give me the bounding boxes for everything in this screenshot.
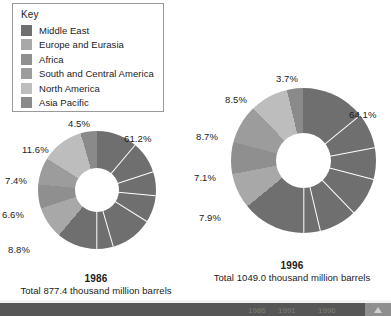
- strip-cell-c: 1996: [318, 306, 336, 315]
- pie-chart-1986: 61.2% 8.8% 6.6% 7.4% 11.6% 4.5% 1986 Tot…: [2, 113, 190, 303]
- legend-item-europe-and-eurasia: Europe and Eurasia: [21, 38, 163, 52]
- legend-label-europe-and-eurasia: Europe and Eurasia: [39, 39, 124, 50]
- legend-item-africa: Africa: [21, 52, 163, 66]
- legend-swatch-asia-pacific: [21, 97, 32, 108]
- slice-separator: [96, 190, 97, 249]
- caption-year-1986: 1986: [2, 273, 190, 285]
- strip-accent-block: [365, 303, 391, 316]
- pct-label-1986-africa: 6.6%: [2, 209, 24, 220]
- pct-label-1996-south-and-central-america: 8.7%: [196, 131, 218, 142]
- caption-1986: 1986 Total 877.4 thousand million barrel…: [2, 273, 190, 297]
- bottom-cropped-strip: 1986 1991 1996: [0, 303, 391, 316]
- legend-label-north-america: North America: [39, 83, 100, 94]
- pct-label-1986-north-america: 11.6%: [22, 144, 49, 155]
- figure-root: Key Middle East Europe and Eurasia Afric…: [0, 0, 391, 316]
- legend-item-north-america: North America: [21, 81, 163, 95]
- legend-swatch-north-america: [21, 83, 32, 94]
- pct-label-1986-south-and-central-america: 7.4%: [5, 175, 27, 186]
- legend-item-middle-east: Middle East: [21, 23, 163, 37]
- pct-label-1996-middle-east: 64.1%: [349, 109, 376, 120]
- legend-label-asia-pacific: Asia Pacific: [39, 97, 89, 108]
- pct-label-1996-europe-and-eurasia: 7.9%: [199, 212, 221, 223]
- caption-total-1996: Total 1049.0 thousand million barrels: [194, 272, 390, 284]
- strip-cell-b: 1991: [278, 306, 296, 315]
- legend-label-south-and-central-america: South and Central America: [39, 68, 154, 79]
- caption-total-1986: Total 877.4 thousand million barrels: [2, 285, 190, 297]
- legend-swatch-africa: [21, 54, 32, 65]
- legend-item-asia-pacific: Asia Pacific: [21, 96, 163, 110]
- pct-label-1996-africa: 7.1%: [194, 172, 216, 183]
- legend-swatch-south-and-central-america: [21, 68, 32, 79]
- legend-item-south-and-central-america: South and Central America: [21, 67, 163, 81]
- strip-cell-a: 1986: [248, 306, 266, 315]
- caption-year-1996: 1996: [194, 260, 390, 272]
- legend-swatch-europe-and-eurasia: [21, 39, 32, 50]
- pct-label-1986-asia-pacific: 4.5%: [68, 118, 90, 129]
- legend-label-africa: Africa: [39, 54, 64, 65]
- legend-box: Key Middle East Europe and Eurasia Afric…: [12, 3, 164, 112]
- legend-swatch-middle-east: [21, 25, 32, 36]
- caption-1996: 1996 Total 1049.0 thousand million barre…: [194, 260, 390, 284]
- pct-label-1996-north-america: 8.5%: [225, 94, 247, 105]
- pct-label-1986-europe-and-eurasia: 8.8%: [8, 244, 30, 255]
- pct-label-1986-middle-east: 61.2%: [124, 133, 151, 144]
- pie-chart-1996: 64.1% 7.9% 7.1% 8.7% 8.5% 3.7% 1996 Tota…: [194, 62, 390, 303]
- pct-label-1996-asia-pacific: 3.7%: [276, 73, 298, 84]
- donut-1986: [38, 131, 156, 249]
- legend-label-middle-east: Middle East: [39, 25, 89, 36]
- slice-separator: [303, 161, 304, 234]
- legend-title: Key: [21, 9, 163, 21]
- triangle-icon: [374, 307, 382, 313]
